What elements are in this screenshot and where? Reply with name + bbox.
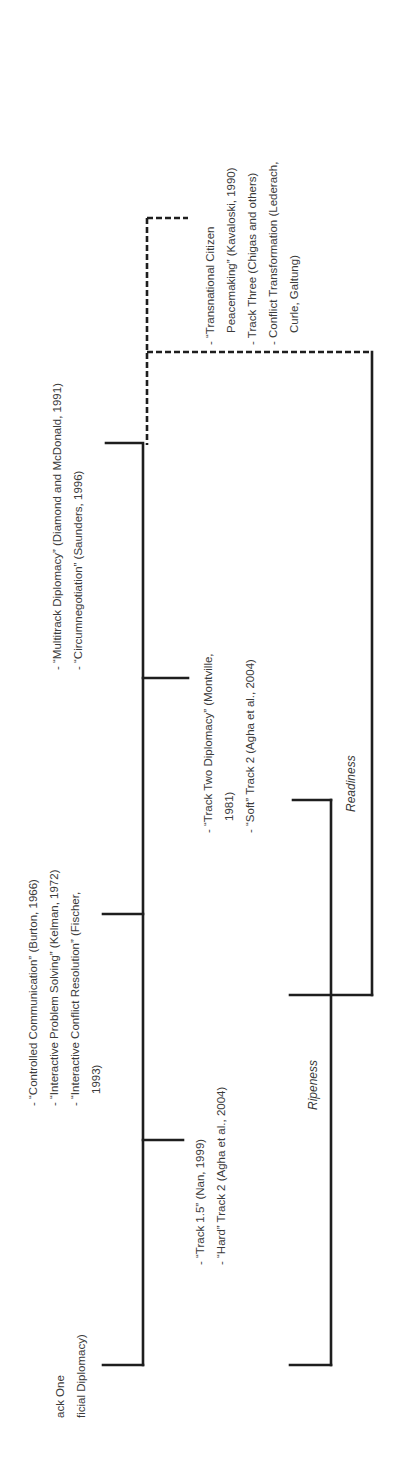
track-two-line-1: - “Track Two Diplomacy” (Montville, bbox=[198, 653, 219, 833]
track-one-line-2: ficial Diplomacy) bbox=[71, 1334, 92, 1418]
track-one-five-line-1: - “Track 1.5” (Nan, 1999) bbox=[190, 1087, 211, 1265]
multitrack-line-1: - “Multitrack Diplomacy” (Diamond and Mc… bbox=[47, 383, 68, 670]
track-two-text: - “Track Two Diplomacy” (Montville, 1981… bbox=[198, 653, 261, 833]
cc-line-2: - “Interactive Problem Solving” (Kelman,… bbox=[44, 870, 65, 1107]
transnational-line-5: Curle, Galtung) bbox=[284, 162, 305, 345]
controlled-communication-text: - “Controlled Communication” (Burton, 19… bbox=[23, 870, 107, 1107]
track-one-five-line-2: - “Hard” Track 2 (Agha et al., 2004) bbox=[211, 1087, 232, 1265]
readiness-label: Readiness bbox=[341, 755, 362, 812]
cc-line-1: - “Controlled Communication” (Burton, 19… bbox=[23, 870, 44, 1107]
transnational-line-1: - “Transnational Citizen bbox=[200, 162, 221, 345]
track-one-text: ack One ficial Diplomacy) bbox=[50, 1334, 92, 1418]
cc-line-3: - “Interactive Conflict Resolution” (Fis… bbox=[65, 870, 86, 1107]
cc-line-4: 1993) bbox=[86, 870, 107, 1107]
track-two-line-3: - “Soft” Track 2 (Agha et al., 2004) bbox=[240, 653, 261, 833]
transnational-line-3: - Track Three (Chigas and others) bbox=[242, 162, 263, 345]
track-two-line-2: 1981) bbox=[219, 653, 240, 833]
track-one-line-1: ack One bbox=[50, 1334, 71, 1418]
multitrack-line-2: - “Circumnegotiation” (Saunders, 1996) bbox=[68, 383, 89, 670]
multitrack-text: - “Multitrack Diplomacy” (Diamond and Mc… bbox=[47, 383, 89, 670]
transnational-line-4: - Conflict Transformation (Lederach, bbox=[263, 162, 284, 345]
transnational-text: - “Transnational Citizen Peacemaking” (K… bbox=[200, 162, 305, 345]
transnational-line-2: Peacemaking” (Kavaloski, 1990) bbox=[221, 162, 242, 345]
track-one-five-text: - “Track 1.5” (Nan, 1999) - “Hard” Track… bbox=[190, 1087, 232, 1265]
ripeness-label: Ripeness bbox=[303, 1060, 324, 1110]
